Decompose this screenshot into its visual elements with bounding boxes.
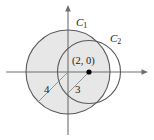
center-point-marker xyxy=(86,69,91,74)
circle-c2-label-subscript: 2 xyxy=(117,37,121,46)
circle-c1-label: C1 xyxy=(76,17,87,30)
radius-label-3: 3 xyxy=(75,84,81,95)
radius-label-4: 4 xyxy=(44,84,50,95)
circle-c1-label-subscript: 1 xyxy=(83,21,87,30)
circles-figure: C1 C2 (2, 0) 4 3 xyxy=(0,0,154,140)
center-point-label: (2, 0) xyxy=(72,56,95,67)
circle-c2-label: C2 xyxy=(110,33,121,46)
